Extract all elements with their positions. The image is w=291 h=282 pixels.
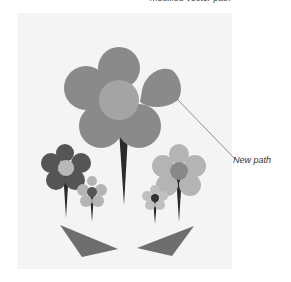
big-flower-center — [99, 80, 139, 120]
petal — [158, 191, 168, 201]
left-leaf — [60, 225, 118, 257]
petal — [150, 185, 160, 195]
petal — [95, 184, 107, 196]
flower-illustration — [0, 0, 291, 282]
right-leaf — [137, 226, 194, 256]
petal — [87, 176, 97, 186]
new-path-label: New path — [233, 155, 271, 165]
petal — [41, 153, 61, 173]
small-flower-center — [87, 187, 97, 197]
right-flower-center — [170, 162, 188, 180]
petal — [77, 184, 89, 196]
petal — [80, 195, 92, 207]
petal — [92, 195, 104, 207]
tiny-flower-center — [151, 194, 159, 202]
petal — [142, 191, 152, 201]
petal — [71, 153, 91, 173]
new-path-petal — [140, 69, 181, 107]
dark-flower-center — [58, 160, 74, 176]
